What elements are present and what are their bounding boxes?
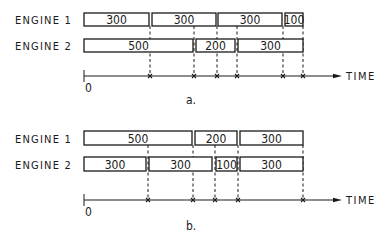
task-duration: 200 bbox=[206, 132, 227, 146]
task-duration: 100 bbox=[284, 13, 305, 27]
task-duration: 200 bbox=[205, 39, 226, 53]
origin-label: 0 bbox=[85, 205, 92, 219]
task-duration: 500 bbox=[128, 39, 149, 53]
diagram-canvas: ENGINE 1300300300100ENGINE 2500200300TIM… bbox=[0, 0, 392, 240]
time-axis-label: TIME bbox=[345, 194, 376, 207]
arrow-head-icon bbox=[333, 198, 342, 202]
diagram-caption: b. bbox=[186, 219, 196, 233]
time-axis-label: TIME bbox=[345, 70, 376, 83]
diagram-a: ENGINE 1300300300100ENGINE 2500200300TIM… bbox=[15, 13, 376, 108]
task-duration: 300 bbox=[261, 158, 282, 172]
arrow-head-icon bbox=[333, 74, 342, 78]
task-duration: 300 bbox=[240, 13, 261, 27]
task-duration: 300 bbox=[105, 158, 126, 172]
diagram-b: ENGINE 1500200300ENGINE 2300300100300TIM… bbox=[15, 131, 376, 233]
task-duration: 300 bbox=[106, 13, 127, 27]
task-duration: 300 bbox=[170, 158, 191, 172]
engine-label: ENGINE 1 bbox=[15, 14, 72, 27]
timeline-figure: ENGINE 1300300300100ENGINE 2500200300TIM… bbox=[0, 0, 392, 240]
task-duration: 300 bbox=[260, 39, 281, 53]
task-duration: 100 bbox=[216, 158, 237, 172]
diagram-caption: a. bbox=[186, 93, 196, 107]
engine-label: ENGINE 1 bbox=[15, 133, 72, 146]
task-duration: 300 bbox=[261, 132, 282, 146]
engine-label: ENGINE 2 bbox=[15, 40, 72, 53]
origin-label: 0 bbox=[85, 81, 92, 95]
task-duration: 300 bbox=[174, 13, 195, 27]
task-duration: 500 bbox=[128, 132, 149, 146]
engine-label: ENGINE 2 bbox=[15, 159, 72, 172]
